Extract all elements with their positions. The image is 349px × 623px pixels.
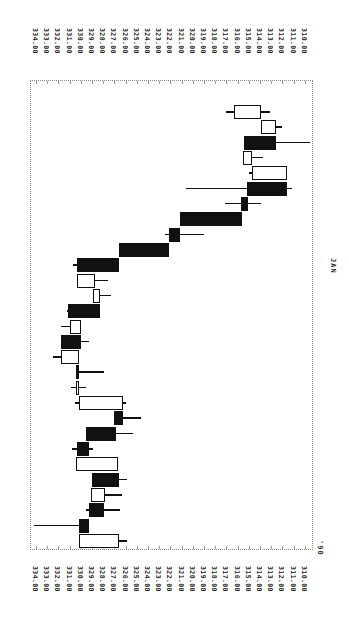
price-tick-label: 316.00 bbox=[232, 566, 242, 606]
price-tick-label: 331.00 bbox=[64, 566, 74, 606]
price-tick-label: 324.00 bbox=[142, 28, 152, 68]
candle-body bbox=[61, 350, 79, 364]
candle bbox=[31, 151, 314, 165]
tick-mark bbox=[81, 81, 82, 84]
candle-body bbox=[77, 258, 118, 272]
tick-mark bbox=[226, 81, 227, 84]
candle-body bbox=[76, 457, 117, 471]
candle bbox=[31, 381, 314, 395]
price-tick-label: 327.00 bbox=[108, 566, 118, 606]
price-tick-label: 325.00 bbox=[131, 566, 141, 606]
price-tick-label: 323.00 bbox=[153, 28, 163, 68]
candle-body bbox=[77, 442, 88, 456]
tick-mark bbox=[249, 81, 250, 84]
candle-body bbox=[252, 166, 287, 180]
candle-body bbox=[244, 136, 275, 150]
tick-mark bbox=[114, 81, 115, 84]
tick-mark bbox=[193, 81, 194, 84]
tick-mark bbox=[294, 81, 295, 84]
price-tick-label: 332.00 bbox=[52, 28, 62, 68]
tick-mark bbox=[137, 81, 138, 84]
candle-body bbox=[241, 197, 248, 211]
candle-body bbox=[91, 488, 106, 502]
candle-body bbox=[93, 289, 100, 303]
price-tick-label: 311.00 bbox=[288, 28, 298, 68]
candle bbox=[31, 197, 314, 211]
price-tick-label: 317.00 bbox=[220, 566, 230, 606]
price-tick-label: 318.00 bbox=[209, 566, 219, 606]
price-tick-label: 334.00 bbox=[30, 566, 40, 606]
candle bbox=[31, 120, 314, 134]
candle-body bbox=[234, 105, 261, 119]
price-tick-label: 315.00 bbox=[243, 566, 253, 606]
price-tick-label: 313.00 bbox=[265, 566, 275, 606]
price-tick-label: 314.00 bbox=[254, 28, 264, 68]
tick-mark bbox=[159, 81, 160, 84]
tick-mark bbox=[47, 81, 48, 84]
candle bbox=[31, 105, 314, 119]
price-tick-label: 322.00 bbox=[164, 28, 174, 68]
price-tick-label: 316.00 bbox=[232, 28, 242, 68]
price-tick-label: 328.00 bbox=[97, 566, 107, 606]
candle-body bbox=[86, 427, 115, 441]
candle bbox=[31, 519, 314, 533]
candle bbox=[31, 365, 314, 379]
candle bbox=[31, 411, 314, 425]
candle bbox=[31, 166, 314, 180]
price-tick-label: 329.00 bbox=[86, 28, 96, 68]
price-tick-label: 331.00 bbox=[64, 28, 74, 68]
candle bbox=[31, 350, 314, 364]
tick-mark bbox=[282, 81, 283, 84]
price-tick-label: 326.00 bbox=[120, 28, 130, 68]
price-tick-label: 322.00 bbox=[164, 566, 174, 606]
candle bbox=[31, 442, 314, 456]
candle bbox=[31, 473, 314, 487]
candle bbox=[31, 258, 314, 272]
candle bbox=[31, 457, 314, 471]
candle bbox=[31, 488, 314, 502]
price-tick-label: 333.00 bbox=[41, 28, 51, 68]
price-tick-label: 310.00 bbox=[299, 28, 309, 68]
price-tick-label: 321.00 bbox=[176, 566, 186, 606]
candle-body bbox=[79, 519, 89, 533]
price-tick-label: 329.00 bbox=[86, 566, 96, 606]
price-tick-label: 319.00 bbox=[198, 566, 208, 606]
candle bbox=[31, 503, 314, 517]
tick-mark bbox=[204, 81, 205, 84]
candle bbox=[31, 289, 314, 303]
price-tick-label: 328.00 bbox=[97, 28, 107, 68]
candle bbox=[31, 396, 314, 410]
tick-mark bbox=[148, 81, 149, 84]
candle-body bbox=[76, 365, 79, 379]
price-tick-label: 319.00 bbox=[198, 28, 208, 68]
tick-mark bbox=[238, 81, 239, 84]
tick-mark bbox=[58, 81, 59, 84]
candle-body bbox=[114, 411, 123, 425]
candle bbox=[31, 335, 314, 349]
tick-mark bbox=[271, 81, 272, 84]
price-tick-label: 321.00 bbox=[176, 28, 186, 68]
price-tick-label: 330.00 bbox=[75, 566, 85, 606]
price-tick-label: 334.00 bbox=[30, 28, 40, 68]
price-tick-label: 312.00 bbox=[276, 566, 286, 606]
candle bbox=[31, 228, 314, 242]
price-tick-label: 320.00 bbox=[187, 566, 197, 606]
price-tick-label: 323.00 bbox=[153, 566, 163, 606]
candle bbox=[31, 320, 314, 334]
price-tick-label: 313.00 bbox=[265, 28, 275, 68]
tick-mark bbox=[305, 81, 306, 84]
candle-body bbox=[79, 534, 119, 548]
candle-body bbox=[247, 182, 287, 196]
price-tick-label: 312.00 bbox=[276, 28, 286, 68]
price-tick-label: 326.00 bbox=[120, 566, 130, 606]
price-tick-label: 318.00 bbox=[209, 28, 219, 68]
candle-body bbox=[70, 320, 81, 334]
candle-body bbox=[76, 381, 79, 395]
candle-body bbox=[92, 473, 119, 487]
price-tick-label: 311.00 bbox=[288, 566, 298, 606]
candle-body bbox=[77, 274, 95, 288]
price-tick-label: 310.00 bbox=[299, 566, 309, 606]
tick-mark bbox=[126, 81, 127, 84]
candle-body bbox=[61, 335, 81, 349]
candle-body bbox=[119, 243, 169, 257]
